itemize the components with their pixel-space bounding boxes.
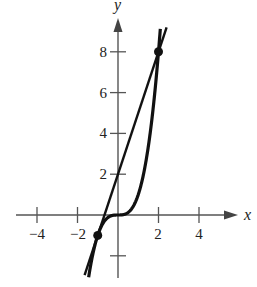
intersection-point bbox=[93, 231, 102, 240]
x-tick-labels: −4 −2 2 4 bbox=[29, 226, 203, 242]
x-tick-label: −4 bbox=[29, 226, 45, 242]
y-tick-label: 4 bbox=[100, 125, 108, 141]
y-axis-label: y bbox=[112, 0, 122, 14]
intersection-point bbox=[154, 47, 163, 56]
y-tick-labels: 2 4 6 8 bbox=[100, 44, 108, 182]
x-axis-arrow-icon bbox=[224, 211, 238, 220]
x-tick-label: −2 bbox=[70, 226, 86, 242]
y-tick-label: 6 bbox=[100, 85, 108, 101]
y-tick-label: 8 bbox=[100, 44, 108, 60]
chart: −4 −2 2 4 2 4 6 8 x y bbox=[0, 0, 257, 287]
x-axis-label: x bbox=[243, 206, 251, 223]
x-tick-label: 4 bbox=[195, 226, 203, 242]
y-tick-label: 2 bbox=[100, 166, 108, 182]
y-axis-arrow-icon bbox=[114, 18, 123, 32]
x-tick-label: 2 bbox=[154, 226, 162, 242]
